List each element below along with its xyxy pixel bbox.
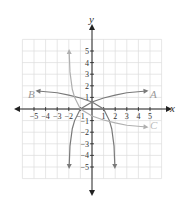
svg-text:4: 4 — [136, 112, 140, 121]
svg-text:4: 4 — [85, 59, 89, 68]
svg-text:−3: −3 — [53, 112, 62, 121]
svg-text:2: 2 — [113, 112, 117, 121]
x-axis-label: x — [169, 102, 175, 114]
svg-text:3: 3 — [85, 70, 89, 79]
svg-text:−5: −5 — [80, 163, 89, 172]
svg-text:−2: −2 — [80, 128, 89, 137]
graph: −5−4−3−2−112345−5−4−3−2−112345 x y A B C — [0, 0, 189, 201]
curve-label-c: C — [150, 119, 158, 131]
svg-text:−3: −3 — [80, 140, 89, 149]
svg-text:2: 2 — [85, 82, 89, 91]
y-axis-label: y — [88, 13, 94, 25]
svg-text:−1: −1 — [80, 117, 89, 126]
curve-label-b: B — [28, 88, 35, 100]
svg-text:−4: −4 — [41, 112, 50, 121]
svg-text:−5: −5 — [30, 112, 39, 121]
svg-text:5: 5 — [85, 47, 89, 56]
axes — [14, 24, 172, 196]
svg-text:−4: −4 — [80, 151, 89, 160]
svg-text:3: 3 — [125, 112, 129, 121]
curve-label-a: A — [149, 88, 157, 100]
svg-text:−2: −2 — [65, 112, 74, 121]
